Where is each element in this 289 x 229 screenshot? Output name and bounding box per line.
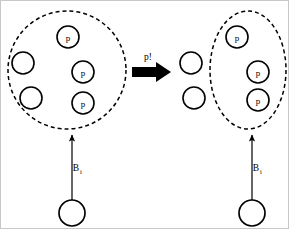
node-label: p (235, 33, 240, 43)
node-label: p (81, 68, 86, 78)
right-node-p-bottom: p (247, 89, 269, 111)
transition-arrow: p! (132, 52, 171, 82)
transition-label: p! (144, 52, 152, 62)
node-circle (183, 87, 205, 109)
right-panel: p p p (180, 11, 286, 226)
source-node-circle (59, 200, 85, 226)
node-circle (20, 87, 42, 109)
left-source-node (59, 200, 85, 226)
node-label: p (81, 99, 86, 109)
node-circle (12, 52, 34, 74)
right-edge-label-subscript: i (260, 168, 262, 175)
left-edge-label-subscript: i (80, 168, 82, 175)
left-edge-label-base: B (73, 163, 79, 173)
right-node-p-mid: p (247, 61, 269, 83)
transition-arrow-shape (132, 62, 171, 82)
right-node-empty-bottom (183, 87, 205, 109)
source-node-circle (239, 200, 265, 226)
node-label: p (66, 33, 71, 43)
left-node-p-mid: p (72, 61, 94, 83)
left-edge-label: B i (73, 163, 82, 175)
right-source-node (239, 200, 265, 226)
node-label: p (256, 68, 261, 78)
right-edge-label: B i (253, 163, 262, 175)
left-node-p-top: p (57, 26, 79, 48)
right-node-empty-mid (180, 52, 202, 74)
node-circle (180, 52, 202, 74)
left-node-empty-mid (12, 52, 34, 74)
right-edge-label-base: B (253, 163, 259, 173)
node-label: p (256, 96, 261, 106)
left-panel: p p p (8, 11, 126, 226)
diagram-canvas: p p p (0, 0, 289, 229)
right-node-p-top: p (226, 26, 248, 48)
left-node-empty-bottom (20, 87, 42, 109)
left-node-p-bottom: p (72, 92, 94, 114)
